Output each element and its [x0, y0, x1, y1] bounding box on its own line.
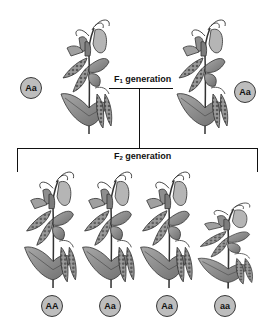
genotype-label: Aa: [239, 87, 251, 97]
f2-bracket-line: [17, 148, 258, 149]
genotype-label: Aa: [104, 301, 116, 311]
genotype-label: aa: [220, 301, 230, 311]
f1-generation-label: F1 generation: [114, 74, 171, 84]
f2-bracket-left-tick: [17, 148, 18, 172]
f2-genotype-3: Aa: [156, 295, 178, 317]
f2-plant-2: [78, 168, 140, 290]
f2-bracket-right-tick: [257, 148, 258, 172]
genotype-label: AA: [46, 301, 59, 311]
f1-cross-line: [109, 88, 173, 89]
f1-plant-right: [172, 16, 234, 136]
f1-plant-left: [56, 16, 118, 136]
f2-plant-3: [136, 168, 198, 290]
genotype-label: Aa: [161, 301, 173, 311]
f1-descent-line: [139, 88, 140, 148]
f2-generation-label: F2 generation: [114, 151, 171, 161]
f2-genotype-4: aa: [214, 295, 236, 317]
f1-genotype-right: Aa: [234, 81, 256, 103]
f2-genotype-1: AA: [41, 295, 63, 317]
genotype-label: Aa: [25, 83, 37, 93]
f2-genotype-2: Aa: [99, 295, 121, 317]
f1-genotype-left: Aa: [20, 77, 42, 99]
f2-plant-4-short: [196, 200, 256, 290]
f2-plant-1: [20, 168, 82, 290]
